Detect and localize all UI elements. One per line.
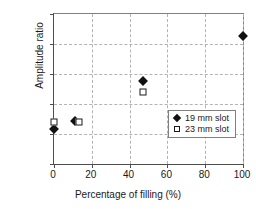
gridline-vertical bbox=[130, 14, 131, 164]
x-axis-tick-label: 80 bbox=[199, 170, 210, 180]
data-point-open-square bbox=[75, 119, 82, 126]
gridline-horizontal bbox=[54, 74, 243, 75]
y-axis-tick bbox=[50, 14, 54, 15]
legend-item: 23 mm slot bbox=[172, 124, 232, 135]
data-point-open-square bbox=[139, 89, 146, 96]
x-axis-tick bbox=[205, 164, 206, 168]
open-square-icon bbox=[172, 124, 183, 135]
legend-item-label: 19 mm slot bbox=[183, 113, 229, 124]
x-axis-tick-label: 40 bbox=[123, 170, 134, 180]
gridline-vertical bbox=[205, 14, 206, 164]
x-axis-tick-label: 0 bbox=[50, 170, 56, 180]
x-axis-tick bbox=[92, 164, 93, 168]
gridline-horizontal bbox=[54, 44, 243, 45]
legend-item-label: 23 mm slot bbox=[183, 124, 229, 135]
legend-item: 19 mm slot bbox=[172, 113, 232, 124]
x-axis-title: Percentage of filling (%) bbox=[0, 189, 256, 200]
filled-diamond-icon bbox=[172, 113, 183, 124]
y-axis-tick bbox=[50, 74, 54, 75]
y-axis-title: Amplitude ratio bbox=[34, 11, 45, 101]
plot-area bbox=[53, 13, 244, 165]
x-axis-tick bbox=[243, 164, 244, 168]
data-point-filled-diamond bbox=[238, 31, 248, 41]
gridline-horizontal bbox=[54, 104, 243, 105]
data-point-filled-diamond bbox=[138, 76, 148, 86]
y-axis-tick bbox=[50, 104, 54, 105]
chart-legend: 19 mm slot 23 mm slot bbox=[168, 110, 236, 138]
x-axis-tick bbox=[54, 164, 55, 168]
x-axis-tick bbox=[130, 164, 131, 168]
x-axis-tick bbox=[167, 164, 168, 168]
gridline-vertical bbox=[167, 14, 168, 164]
x-axis-tick-label: 60 bbox=[161, 170, 172, 180]
data-point-open-square bbox=[51, 119, 58, 126]
x-axis-tick-label: 20 bbox=[85, 170, 96, 180]
chart-figure: 0.000.100.200.300.400.50 020406080100 Am… bbox=[0, 0, 256, 209]
gridline-vertical bbox=[92, 14, 93, 164]
y-axis-tick bbox=[50, 44, 54, 45]
x-axis-tick-label: 100 bbox=[234, 170, 251, 180]
